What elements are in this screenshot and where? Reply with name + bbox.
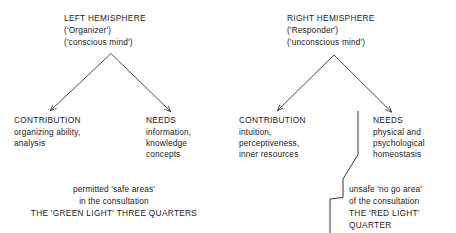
left-contribution-line-1: organizing ability, xyxy=(14,127,80,139)
right-contribution-line-1: intuition, xyxy=(239,127,271,139)
right-contribution-heading: CONTRIBUTION xyxy=(239,115,306,127)
right-hemisphere-heading: RIGHT HEMISPHERE xyxy=(287,13,375,25)
left-needs-line-2: knowledge xyxy=(146,138,187,150)
arrow-left-to-contribution xyxy=(51,54,112,111)
left-hemisphere-subtitle-1: ('Organizer') xyxy=(64,25,111,37)
right-contribution-line-3: inner resources xyxy=(239,149,298,161)
red-light-line-4: QUARTER xyxy=(349,220,392,232)
left-needs-heading: NEEDS xyxy=(146,115,176,127)
left-contribution-heading: CONTRIBUTION xyxy=(14,115,81,127)
red-light-line-3: THE 'RED LIGHT' xyxy=(349,208,420,220)
right-hemisphere-subtitle-1: ('Responder') xyxy=(287,25,338,37)
left-hemisphere-fork xyxy=(51,54,171,112)
right-needs-line-2: psychological xyxy=(373,138,425,150)
right-hemisphere-subtitle-2: ('unconscious mind') xyxy=(287,37,365,49)
arrow-left-to-needs xyxy=(111,54,171,112)
red-light-line-2: of the consultation xyxy=(349,196,419,208)
arrow-right-to-contribution xyxy=(278,55,335,111)
left-contribution-line-2: analysis xyxy=(14,138,45,150)
right-contribution-line-2: perceptiveness, xyxy=(239,138,299,150)
left-hemisphere-heading: LEFT HEMISPHERE xyxy=(64,13,146,25)
left-needs-line-1: information, xyxy=(146,127,191,139)
green-light-line-2: in the consultation xyxy=(0,196,228,208)
green-light-line-3: THE 'GREEN LIGHT' THREE QUARTERS xyxy=(0,208,228,220)
arrow-right-to-needs xyxy=(334,55,392,112)
diagram-canvas: LEFT HEMISPHERE ('Organizer') ('consciou… xyxy=(0,0,456,233)
right-needs-heading: NEEDS xyxy=(373,115,403,127)
left-hemisphere-subtitle-2: ('conscious mind') xyxy=(64,37,133,49)
red-light-line-1: unsafe 'no go area' xyxy=(349,184,422,196)
green-light-line-1: permitted 'safe areas' xyxy=(0,184,228,196)
left-needs-line-3: concepts xyxy=(146,149,180,161)
right-needs-line-1: physical and xyxy=(373,127,421,139)
right-hemisphere-fork xyxy=(278,55,392,112)
right-needs-line-3: homeostasis xyxy=(373,149,421,161)
